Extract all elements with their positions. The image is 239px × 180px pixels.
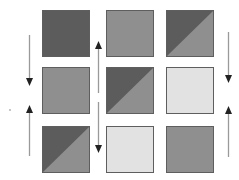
tile-r3-c1-split [42,126,90,173]
tile-r3-c3-medium [166,126,214,173]
tile-r1-c2-medium [106,10,154,57]
diagonal-split-icon [107,68,153,113]
diagonal-split-icon [167,11,213,56]
tile-r2-c2-split [106,67,154,114]
arrow-down-icon [94,102,103,153]
arrow-down-icon [25,35,34,86]
stray-dot [9,109,11,111]
diagonal-split-icon [43,127,89,172]
tile-r1-c3-split [166,10,214,57]
arrow-down-icon [224,32,233,83]
arrow-up-icon [224,106,233,157]
tile-r3-c2-light [106,126,154,173]
arrow-up-icon [25,105,34,156]
tile-r1-c1-dark [42,10,90,57]
tile-r2-c3-light [166,67,214,114]
tile-r2-c1-medium [42,67,90,114]
arrow-up-icon [94,41,103,93]
